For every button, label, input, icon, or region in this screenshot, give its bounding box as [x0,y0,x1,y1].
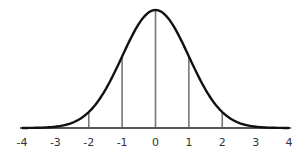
x-tick-label: 1 [185,136,192,149]
x-tick-label: 4 [286,136,293,149]
x-tick-label: 0 [152,136,159,149]
x-tick-label: -4 [17,136,28,149]
x-tick-labels: -4-3-2-101234 [17,136,293,149]
x-tick-label: -2 [83,136,94,149]
x-tick-label: 3 [252,136,259,149]
x-tick-label: 2 [219,136,226,149]
sd-reference-lines [89,11,223,128]
x-tick-label: -3 [50,136,61,149]
x-tick-label: -1 [117,136,128,149]
normal-curve-chart: -4-3-2-101234 [0,0,307,152]
